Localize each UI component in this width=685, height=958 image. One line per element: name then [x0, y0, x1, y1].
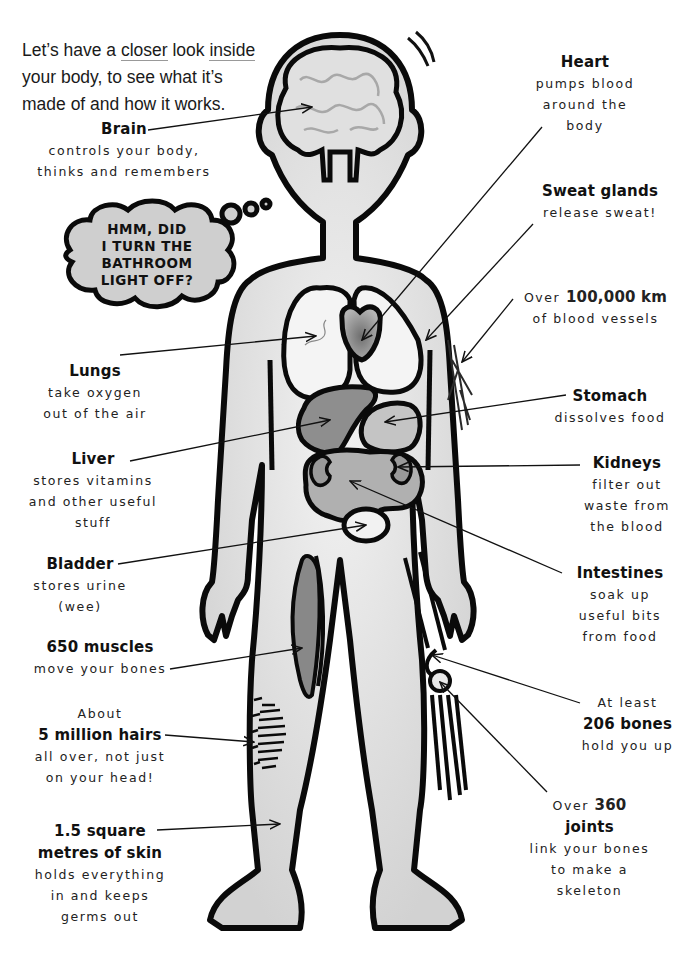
stomach-organ	[361, 403, 420, 452]
label-title: joints	[522, 816, 657, 838]
label-liver: Liver stores vitamins and other useful s…	[18, 448, 168, 533]
underlined-closer: closer	[121, 40, 168, 61]
label-title: 5 million hairs	[15, 724, 185, 746]
label-title: Stomach	[535, 385, 685, 407]
label-bones: At least 206 bones hold you up	[570, 692, 685, 756]
label-hairs: About 5 million hairs all over, not just…	[15, 703, 185, 788]
label-muscles: 650 muscles move your bones	[20, 636, 180, 679]
thought-bubble-text: HMM, DID I TURN THE BATHROOM LIGHT OFF?	[72, 221, 222, 289]
label-stomach: Stomach dissolves food	[535, 385, 685, 428]
label-joints: Over 360 joints link your bones to make …	[522, 795, 657, 901]
kidney-left	[311, 456, 330, 485]
label-title: 650 muscles	[20, 636, 180, 658]
label-brain: Brain controls your body, thinks and rem…	[34, 118, 214, 182]
label-title: 1.5 square	[20, 820, 180, 842]
label-title: Liver	[18, 448, 168, 470]
head-motion-lines	[408, 32, 434, 66]
label-title: Brain	[34, 118, 214, 140]
label-title: metres of skin	[20, 842, 180, 864]
label-title: Heart	[510, 51, 660, 73]
label-title: Intestines	[555, 562, 685, 584]
label-blood-vessels: Over 100,000 km of blood vessels	[508, 287, 683, 329]
label-title: Kidneys	[572, 452, 682, 474]
label-intestines: Intestines soak up useful bits from food	[555, 562, 685, 647]
label-lungs: Lungs take oxygen out of the air	[20, 360, 170, 424]
label-title: 206 bones	[570, 713, 685, 735]
intro-text: Let’s have a closer look inside your bod…	[22, 37, 282, 118]
blood-vessels-pointer	[462, 299, 513, 362]
label-bladder: Bladder stores urine (wee)	[20, 553, 140, 617]
label-kidneys: Kidneys filter out waste from the blood	[572, 452, 682, 537]
label-heart: Heart pumps blood around the body	[510, 51, 660, 136]
label-sweat-glands: Sweat glands release sweat!	[525, 180, 675, 223]
label-title: Lungs	[20, 360, 170, 382]
label-title: Sweat glands	[525, 180, 675, 202]
kidney-right	[392, 454, 411, 483]
label-skin: 1.5 square metres of skin holds everythi…	[20, 820, 180, 927]
underlined-inside: inside	[209, 40, 255, 61]
label-title: Bladder	[20, 553, 140, 575]
